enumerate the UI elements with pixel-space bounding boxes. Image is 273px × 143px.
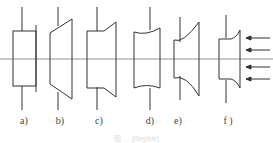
profile-e xyxy=(174,17,199,100)
label-c: c) xyxy=(95,115,103,126)
label-f: f ) xyxy=(223,115,232,126)
label-e: e) xyxy=(174,115,182,126)
figure-caption: 图 … (illegible) xyxy=(0,133,273,143)
profile-a xyxy=(13,7,36,110)
label-b: b) xyxy=(56,115,64,126)
label-a: a) xyxy=(20,115,28,126)
profile-d xyxy=(134,7,160,110)
profile-b xyxy=(50,7,72,110)
profile-c xyxy=(87,7,116,110)
label-d: d) xyxy=(146,115,154,126)
flow-arrows xyxy=(246,36,270,81)
